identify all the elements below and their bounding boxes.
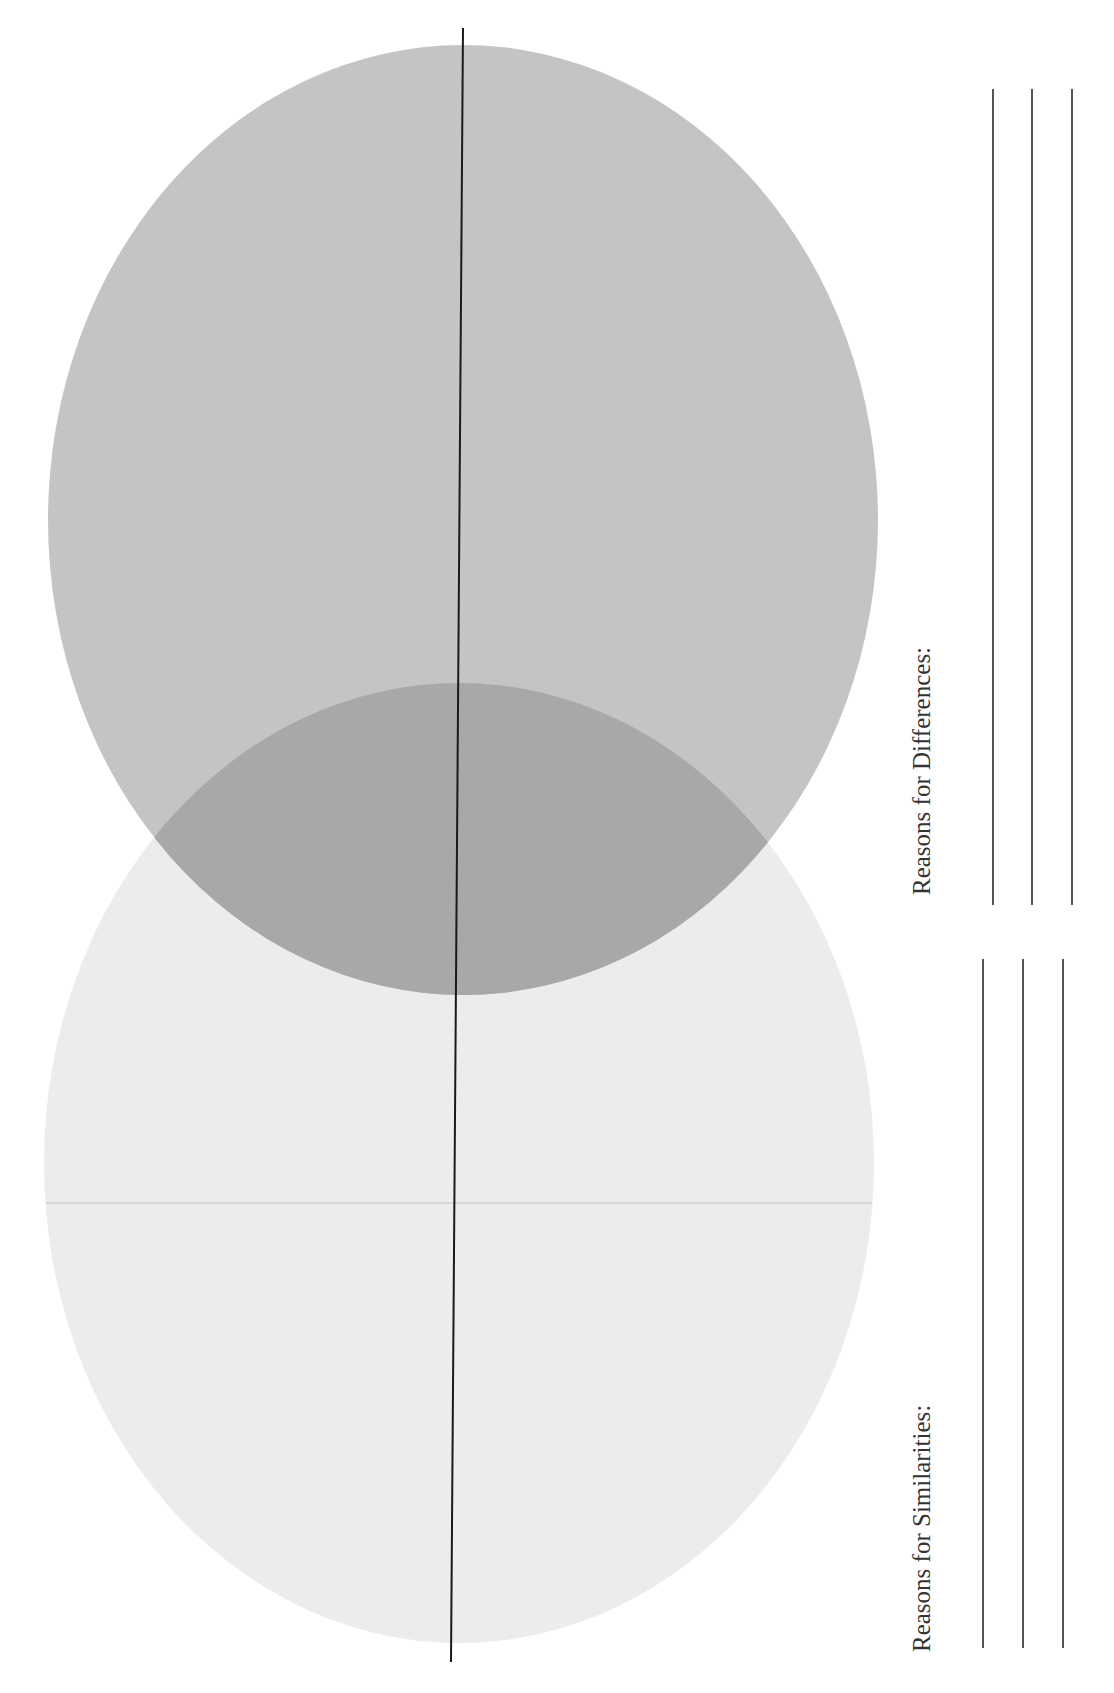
differences-line-2[interactable] xyxy=(1031,89,1033,905)
similarities-label: Reasons for Similarities: xyxy=(908,1405,936,1652)
differences-line-1[interactable] xyxy=(992,89,994,905)
similarities-line-3[interactable] xyxy=(1062,959,1064,1648)
similarities-line-2[interactable] xyxy=(1022,959,1024,1648)
venn-diagram xyxy=(0,0,1114,1693)
differences-line-3[interactable] xyxy=(1071,89,1073,905)
similarities-line-1[interactable] xyxy=(982,959,984,1648)
differences-label: Reasons for Differences: xyxy=(908,647,936,895)
